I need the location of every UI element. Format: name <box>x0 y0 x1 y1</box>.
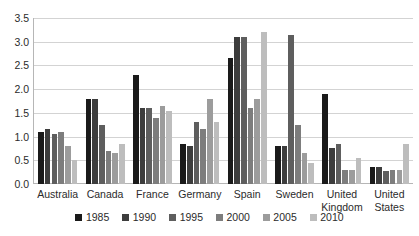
bar <box>356 158 362 184</box>
y-axis-tick-label: 0.0 <box>0 179 29 190</box>
bar <box>288 35 294 184</box>
bar <box>119 144 125 184</box>
legend-label: 1985 <box>86 212 109 223</box>
bar <box>234 37 240 184</box>
bar <box>38 132 44 184</box>
legend-label: 2010 <box>320 212 343 223</box>
bar <box>248 108 254 184</box>
bar <box>200 129 206 184</box>
legend-item[interactable]: 1985 <box>75 212 109 223</box>
bar <box>302 153 308 184</box>
bar <box>146 108 152 184</box>
legend-item[interactable]: 2000 <box>216 212 250 223</box>
y-axis-tick-label: 1.5 <box>0 108 29 119</box>
legend-label: 2000 <box>227 212 250 223</box>
x-axis-labels: AustraliaCanadaFranceGermanySpainSwedenU… <box>34 188 413 213</box>
x-axis-label: United Kingdom <box>318 188 365 213</box>
bar <box>254 99 260 184</box>
bar <box>241 37 247 184</box>
bar <box>112 153 118 184</box>
y-axis-tick-label: 3.5 <box>0 13 29 24</box>
legend-swatch-icon <box>310 214 317 221</box>
x-axis-label: Sweden <box>271 188 318 213</box>
y-axis-tick-label: 3.0 <box>0 36 29 47</box>
legend-label: 1995 <box>180 212 203 223</box>
legend-label: 2005 <box>273 212 296 223</box>
bar-group <box>318 18 365 184</box>
x-axis-label: United States <box>366 188 413 213</box>
bar <box>349 170 355 184</box>
bar <box>207 99 213 184</box>
bar-group <box>224 18 271 184</box>
bar <box>65 146 71 184</box>
bar <box>140 108 146 184</box>
y-axis-tick-label: 2.0 <box>0 84 29 95</box>
x-axis-label: Australia <box>34 188 81 213</box>
bar-chart: 0.00.51.01.52.02.53.03.5 AustraliaCanada… <box>0 0 419 236</box>
x-axis-label: France <box>129 188 176 213</box>
legend-swatch-icon <box>75 214 82 221</box>
bar <box>214 122 220 184</box>
legend: 198519901995200020052010 <box>0 212 419 223</box>
legend-item[interactable]: 2010 <box>310 212 344 223</box>
bar <box>92 99 98 184</box>
bar <box>342 170 348 184</box>
bar <box>133 75 139 184</box>
bar <box>180 144 186 184</box>
y-axis-tick-label: 0.5 <box>0 155 29 166</box>
bar <box>275 146 281 184</box>
bar <box>370 167 376 184</box>
bar <box>153 118 159 184</box>
bar <box>187 146 193 184</box>
bar <box>58 132 64 184</box>
bar <box>376 167 382 184</box>
bar <box>261 32 267 184</box>
y-axis-tick-label: 1.0 <box>0 131 29 142</box>
bar <box>282 146 288 184</box>
legend-swatch-icon <box>263 214 270 221</box>
bar <box>397 170 403 184</box>
bar <box>390 170 396 184</box>
bar-group <box>366 18 413 184</box>
bar <box>403 144 409 184</box>
bar <box>166 111 172 185</box>
bar-group <box>176 18 223 184</box>
bar <box>45 129 51 184</box>
bar <box>308 163 314 184</box>
y-axis-tick-label: 2.5 <box>0 60 29 71</box>
bar <box>72 160 78 184</box>
bar <box>329 148 335 184</box>
x-axis-label: Canada <box>81 188 128 213</box>
bar <box>228 58 234 184</box>
legend-swatch-icon <box>122 214 129 221</box>
x-axis-label: Germany <box>176 188 223 213</box>
legend-item[interactable]: 1995 <box>169 212 203 223</box>
bar <box>160 106 166 184</box>
bar <box>106 151 112 184</box>
bar <box>295 125 301 184</box>
bar <box>194 122 200 184</box>
bar <box>336 144 342 184</box>
legend-item[interactable]: 1990 <box>122 212 156 223</box>
bar-group <box>129 18 176 184</box>
bar-group <box>271 18 318 184</box>
bar-group <box>34 18 81 184</box>
legend-swatch-icon <box>169 214 176 221</box>
bar-groups <box>34 18 413 184</box>
legend-swatch-icon <box>216 214 223 221</box>
legend-item[interactable]: 2005 <box>263 212 297 223</box>
bar <box>383 171 389 184</box>
x-axis-label: Spain <box>224 188 271 213</box>
bar <box>52 134 58 184</box>
bar <box>322 94 328 184</box>
bar <box>99 125 105 184</box>
bar <box>86 99 92 184</box>
legend-label: 1990 <box>133 212 156 223</box>
bar-group <box>81 18 128 184</box>
